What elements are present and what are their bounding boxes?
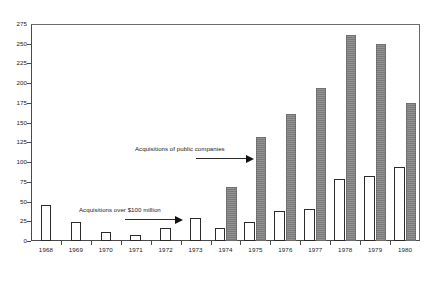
bar-chart: 0255075100125150175200225250275 19681969… — [0, 0, 428, 282]
bar-gray-1979 — [376, 44, 387, 241]
bar-white-1978 — [334, 179, 345, 241]
x-axis: 1968196919701971197219731974197519761977… — [31, 247, 420, 261]
bar-white-1971 — [130, 235, 141, 241]
x-tick-mark — [211, 241, 212, 245]
x-tick-label: 1971 — [129, 247, 143, 253]
x-tick-mark — [151, 241, 152, 245]
bar-white-1977 — [304, 209, 315, 241]
bar-white-1968 — [41, 205, 52, 241]
y-tick-label: 50 — [0, 198, 27, 204]
x-tick-mark — [91, 241, 92, 245]
x-tick-label: 1969 — [69, 247, 83, 253]
x-tick-mark — [300, 241, 301, 245]
y-tick-mark — [27, 44, 31, 45]
y-tick-mark — [27, 221, 31, 222]
x-tick-mark — [270, 241, 271, 245]
x-tick-label: 1968 — [39, 247, 53, 253]
x-tick-mark — [121, 241, 122, 245]
y-tick-mark — [27, 123, 31, 124]
y-tick-label: 100 — [0, 159, 27, 165]
y-tick-mark — [27, 182, 31, 183]
bar-white-1976 — [274, 211, 285, 241]
x-tick-mark — [240, 241, 241, 245]
y-tick-label: 225 — [0, 60, 27, 66]
x-tick-label: 1972 — [159, 247, 173, 253]
bar-white-1970 — [101, 232, 112, 241]
x-tick-label: 1979 — [368, 247, 382, 253]
bar-white-1973 — [190, 218, 201, 241]
y-tick-mark — [27, 142, 31, 143]
bar-gray-1978 — [346, 35, 357, 241]
y-tick-mark — [27, 103, 31, 104]
bar-white-1975 — [244, 222, 255, 241]
y-tick-label: 250 — [0, 41, 27, 47]
x-tick-label: 1976 — [278, 247, 292, 253]
y-tick-mark — [27, 63, 31, 64]
y-tick-label: 25 — [0, 218, 27, 224]
y-tick-label: 200 — [0, 80, 27, 86]
y-tick-mark — [27, 162, 31, 163]
x-tick-label: 1974 — [218, 247, 232, 253]
bar-gray-1974 — [226, 187, 237, 241]
x-tick-label: 1978 — [338, 247, 352, 253]
x-tick-label: 1977 — [308, 247, 322, 253]
x-tick-label: 1980 — [398, 247, 412, 253]
bar-white-1974 — [215, 228, 226, 241]
y-tick-label: 150 — [0, 120, 27, 126]
x-tick-mark — [390, 241, 391, 245]
x-tick-mark — [360, 241, 361, 245]
bar-gray-1980 — [406, 103, 417, 241]
y-tick-label: 0 — [0, 238, 27, 244]
bar-gray-1977 — [316, 88, 327, 241]
y-tick-label: 75 — [0, 179, 27, 185]
bar-gray-1975 — [256, 137, 267, 241]
x-tick-label: 1975 — [248, 247, 262, 253]
bar-white-1979 — [364, 176, 375, 241]
bar-gray-1976 — [286, 114, 297, 241]
y-tick-mark — [27, 202, 31, 203]
annotation-over-100-million-arrow-line — [125, 219, 175, 220]
annotation-public-companies-arrow-line — [196, 158, 246, 159]
annotation-public-companies-arrow-head — [246, 155, 254, 163]
x-tick-label: 1973 — [188, 247, 202, 253]
x-tick-label: 1970 — [99, 247, 113, 253]
annotation-over-100-million-arrow-head — [175, 216, 183, 224]
x-tick-mark — [181, 241, 182, 245]
y-axis: 0255075100125150175200225250275 — [0, 24, 27, 241]
bar-white-1980 — [394, 167, 405, 241]
y-tick-label: 125 — [0, 139, 27, 145]
y-tick-mark — [27, 241, 31, 242]
y-tick-label: 175 — [0, 100, 27, 106]
x-tick-mark — [330, 241, 331, 245]
y-tick-mark — [27, 83, 31, 84]
bar-white-1972 — [160, 228, 171, 241]
bar-white-1969 — [71, 222, 82, 241]
annotation-public-companies-text: Acquisitions of public companies — [135, 145, 225, 152]
annotation-over-100-million-text: Acquisitions over $100 million — [79, 206, 161, 213]
y-tick-label: 275 — [0, 21, 27, 27]
x-tick-mark — [61, 241, 62, 245]
